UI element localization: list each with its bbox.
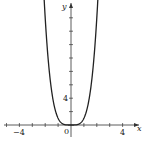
- y-tick-label-4: 4: [63, 94, 68, 103]
- x-axis-label: x: [137, 124, 142, 133]
- x-tick-label-4: 4: [120, 128, 125, 137]
- x-tick-label-neg4: −4: [13, 128, 25, 137]
- plot: −4 0 4 4 x y: [0, 0, 144, 144]
- axes: [4, 3, 139, 137]
- y-axis-label: y: [61, 2, 67, 11]
- origin-label: 0: [64, 127, 69, 136]
